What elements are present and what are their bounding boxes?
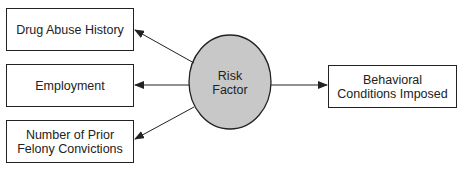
node-label-line1: Behavioral	[363, 73, 422, 87]
node-label-line2: Conditions Imposed	[337, 87, 447, 101]
arrow-to-felony	[135, 107, 194, 139]
node-felony-convictions: Number of Prior Felony Convictions	[6, 120, 134, 163]
node-behavioral-conditions: Behavioral Conditions Imposed	[328, 65, 457, 108]
risk-factor-label: Risk Factor	[190, 69, 270, 97]
node-label-line1: Number of Prior	[26, 128, 114, 142]
node-label-line2: Felony Convictions	[17, 142, 123, 156]
arrow-to-drug-abuse	[135, 30, 194, 63]
node-label: Drug Abuse History	[16, 23, 124, 37]
node-drug-abuse-history: Drug Abuse History	[6, 8, 134, 51]
node-employment: Employment	[6, 64, 134, 107]
risk-label-line2: Factor	[190, 83, 270, 97]
node-label: Employment	[35, 79, 104, 93]
risk-label-line1: Risk	[190, 69, 270, 83]
